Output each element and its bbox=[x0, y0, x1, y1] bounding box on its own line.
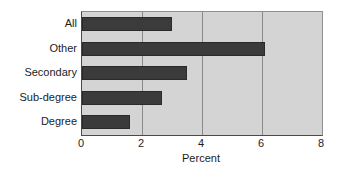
bar-all bbox=[82, 17, 172, 31]
x-tick-label: 2 bbox=[129, 137, 153, 149]
bar-sub-degree bbox=[82, 91, 162, 105]
bar-chart: All Other Secondary Sub-degree Degree 0 … bbox=[0, 0, 340, 172]
bar-degree bbox=[82, 115, 130, 129]
bar-row bbox=[82, 61, 322, 86]
bar-other bbox=[82, 42, 265, 56]
category-label: Other bbox=[1, 43, 77, 54]
bar-row bbox=[82, 86, 322, 111]
x-tick-label: 6 bbox=[249, 137, 273, 149]
bar-row bbox=[82, 110, 322, 135]
plot-area bbox=[81, 11, 323, 136]
x-axis-tick-labels: 0 2 4 6 8 bbox=[0, 137, 340, 151]
x-tick-label: 0 bbox=[69, 137, 93, 149]
category-label: Sub-degree bbox=[1, 92, 77, 103]
bar-secondary bbox=[82, 66, 187, 80]
category-label: Secondary bbox=[1, 67, 77, 78]
x-tick-label: 8 bbox=[309, 137, 333, 149]
x-axis-title: Percent bbox=[81, 152, 321, 164]
bar-row bbox=[82, 12, 322, 37]
category-label: All bbox=[1, 18, 77, 29]
bar-row bbox=[82, 37, 322, 62]
category-axis-labels: All Other Secondary Sub-degree Degree bbox=[0, 11, 77, 134]
x-tick-label: 4 bbox=[189, 137, 213, 149]
category-label: Degree bbox=[1, 116, 77, 127]
